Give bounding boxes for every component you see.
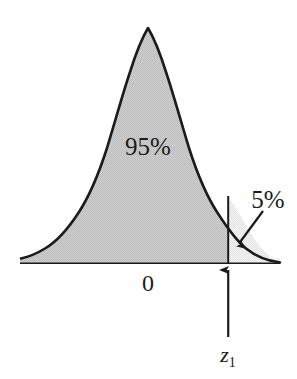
normal-curve-svg: 95% 5% 0 z1 [0, 0, 297, 379]
tail-area-label: 5% [251, 186, 284, 213]
distribution-figure: 95% 5% 0 z1 [0, 0, 297, 379]
mean-tick-label: 0 [142, 270, 154, 296]
critical-value-base: z [219, 342, 229, 367]
body-area-label: 95% [125, 133, 171, 160]
critical-value-subscript: 1 [229, 355, 236, 370]
